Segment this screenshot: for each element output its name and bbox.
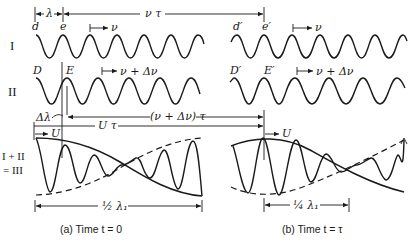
- svg-text:U: U: [51, 127, 61, 140]
- caption-a: (a) Time t = 0: [60, 223, 122, 235]
- svg-text:ν + Δν: ν + Δν: [316, 65, 354, 78]
- half-lambda1-label: ½ λ₁: [102, 200, 128, 213]
- beat-wave-b: [231, 138, 407, 195]
- delta-lambda-label: Δλ: [35, 111, 51, 124]
- velocity-arrow-wave-2-a: ν + Δν: [102, 65, 158, 78]
- dimension-lambda: λ: [35, 7, 63, 22]
- point-d: d: [32, 20, 39, 33]
- beat-wave-a: [36, 138, 202, 196]
- velocity-arrow-wave-2-b: ν + Δν: [297, 65, 354, 78]
- svg-text:ν: ν: [111, 21, 118, 34]
- svg-text:U: U: [282, 127, 292, 140]
- carrier-a: [36, 138, 202, 196]
- velocity-arrow-wave-1-b: ν: [293, 21, 322, 34]
- nu-dnu-tau-label: (ν + Δν) τ: [150, 110, 207, 123]
- wave-2-a: [36, 78, 200, 104]
- quarter-lambda1-label: ¼ λ₁: [293, 199, 319, 212]
- svg-text:ν: ν: [315, 21, 322, 34]
- dimension-u-tau: U τ: [34, 119, 263, 140]
- wave-1-a: [36, 35, 204, 58]
- nu-tau-label: ν τ: [145, 7, 162, 20]
- u-tau-label: U τ: [98, 119, 118, 132]
- row-label-sum: I + II: [2, 150, 25, 162]
- lambda-label: λ: [45, 7, 53, 20]
- point-E: E: [65, 64, 74, 77]
- point-d-prime: d′: [233, 20, 243, 33]
- wave-1-b: [231, 35, 407, 58]
- row-label-sum-result: = III: [3, 164, 23, 176]
- dimension-half-lambda1: ½ λ₁: [35, 200, 202, 213]
- row-label-wave-2: II: [8, 84, 17, 99]
- carrier-b: [233, 138, 404, 195]
- dimension-delta-lambda: Δλ: [35, 111, 63, 124]
- wave-packet-diagram: I II I + II = III λ ν τ d e D E d′ e′ D′…: [0, 0, 412, 242]
- point-e: e: [60, 20, 67, 33]
- velocity-arrow-wave-1-a: ν: [90, 21, 118, 34]
- wave-2-b: [230, 78, 405, 104]
- caption-b: (b) Time t = τ: [282, 223, 343, 235]
- point-D: D: [32, 64, 42, 77]
- row-label-wave-1: I: [10, 38, 14, 53]
- dimension-quarter-lambda1: ¼ λ₁: [264, 198, 349, 212]
- point-e-prime: e′: [262, 20, 272, 33]
- svg-text:ν + Δν: ν + Δν: [120, 65, 158, 78]
- group-velocity-arrow-b: U: [265, 127, 292, 140]
- point-E-prime: E′: [263, 64, 275, 77]
- point-D-prime: D′: [229, 64, 242, 77]
